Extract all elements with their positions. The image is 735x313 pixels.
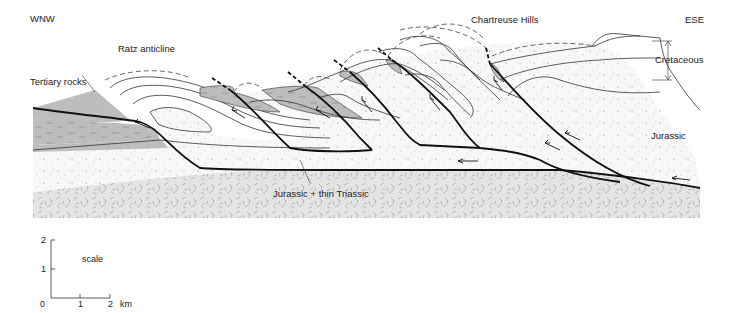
scale-x-tick-1: 1: [78, 299, 83, 309]
basement-label: Jurassic + thin Triassic: [273, 188, 369, 199]
tertiary-rocks-label: Tertiary rocks: [30, 76, 87, 87]
scale-x-tick-2: 2: [108, 299, 113, 309]
wnw-label: WNW: [30, 13, 55, 24]
jurassic-label: Jurassic: [651, 130, 686, 141]
cross-section-diagram: WNW ESE Ratz anticline Chartreuse Hills …: [0, 0, 735, 313]
scale-bar: scale 0 1 2 1 2 km: [40, 235, 132, 309]
scale-y-tick-1: 1: [41, 264, 46, 274]
ese-label: ESE: [685, 14, 704, 25]
chartreuse-hills-label: Chartreuse Hills: [471, 14, 539, 25]
scale-title: scale: [82, 254, 103, 264]
scale-y-tick-2: 2: [41, 235, 46, 245]
ratz-anticline-label: Ratz anticline: [118, 43, 175, 54]
scale-y-tick-0: 0: [40, 299, 45, 309]
scale-x-unit: km: [120, 299, 132, 309]
cretaceous-label: Cretaceous: [655, 54, 704, 65]
